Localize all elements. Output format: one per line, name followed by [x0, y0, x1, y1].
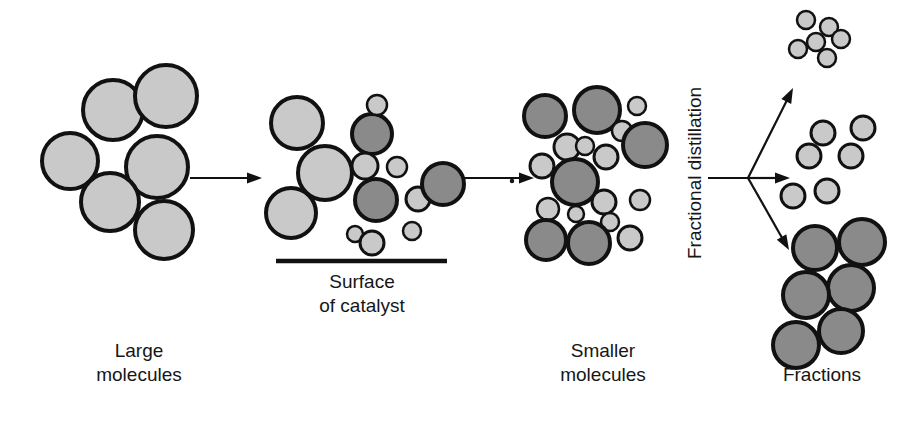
- molecule-smaller-3: [628, 97, 646, 115]
- molecule-catalyst-9: [403, 222, 421, 240]
- arrow-branch-down-head: [777, 234, 789, 250]
- molecule-catalyst-3: [355, 179, 397, 221]
- molecule-fraction-middle-1: [851, 116, 875, 140]
- molecule-smaller-12: [537, 198, 559, 220]
- arrow-branch-up-head: [781, 88, 793, 104]
- molecule-smaller-5: [576, 137, 594, 155]
- fraction-group-light: [789, 11, 850, 67]
- molecule-smaller-7: [594, 145, 618, 169]
- molecule-fraction-light-3: [832, 30, 850, 48]
- molecule-catalyst-2: [266, 188, 316, 238]
- label-large-line1: Large: [115, 340, 164, 361]
- label-smaller-line2: molecules: [560, 364, 646, 385]
- molecule-smaller-8: [530, 154, 554, 178]
- molecule-catalyst-12: [360, 231, 384, 255]
- molecule-fraction-middle-5: [781, 184, 805, 208]
- molecule-fraction-heavy-1: [839, 219, 885, 265]
- molecule-fraction-heavy-2: [828, 265, 874, 311]
- label-large-line2: molecules: [96, 364, 182, 385]
- molecule-catalyst-5: [367, 95, 387, 115]
- molecule-smaller-11: [630, 190, 650, 210]
- molecule-catalyst-6: [352, 153, 378, 179]
- molecule-smaller-0: [524, 95, 566, 137]
- molecule-fraction-light-4: [789, 40, 807, 58]
- molecule-large-5: [135, 201, 193, 259]
- stage-smaller-molecules: [511, 87, 667, 264]
- catalytic-cracking-diagram: Large molecules Surface of catalyst Smal…: [0, 0, 900, 434]
- arrow-stage1-to-stage2-head: [247, 173, 262, 184]
- molecule-fraction-light-2: [807, 33, 825, 51]
- molecule-fraction-heavy-0: [793, 226, 837, 270]
- molecule-smaller-18: [511, 180, 513, 182]
- molecule-smaller-17: [618, 226, 642, 250]
- molecule-smaller-13: [568, 206, 584, 222]
- label-catalyst-line1: Surface: [329, 271, 394, 292]
- arrow-branch-up-shaft: [748, 99, 787, 178]
- fraction-group-middle: [781, 116, 875, 208]
- label-catalyst-line2: of catalyst: [319, 295, 405, 316]
- molecule-smaller-10: [592, 190, 616, 214]
- molecule-fraction-heavy-4: [819, 309, 863, 353]
- fraction-group-heavy: [773, 219, 885, 368]
- molecule-fraction-middle-2: [797, 144, 821, 168]
- molecule-fraction-middle-3: [839, 144, 863, 168]
- molecule-smaller-15: [526, 220, 566, 260]
- molecule-catalyst-0: [271, 97, 323, 149]
- molecule-catalyst-4: [352, 114, 392, 154]
- molecule-large-2: [135, 65, 197, 127]
- label-fractions: Fractions: [783, 364, 861, 385]
- molecule-fraction-light-5: [818, 49, 836, 67]
- arrow-branch-middle-head: [775, 173, 790, 184]
- molecule-smaller-16: [568, 222, 610, 264]
- diagram-canvas: Large molecules Surface of catalyst Smal…: [0, 0, 900, 434]
- molecule-fraction-middle-0: [811, 121, 835, 145]
- molecule-smaller-6: [623, 123, 667, 167]
- stage-large-molecules: [42, 65, 197, 259]
- stage-catalyst-surface: [266, 95, 464, 255]
- molecule-catalyst-10: [422, 163, 464, 205]
- molecule-catalyst-7: [387, 157, 407, 177]
- label-smaller-line1: Smaller: [571, 340, 636, 361]
- label-fractional-distillation: Fractional distillation: [684, 87, 705, 259]
- molecule-fraction-middle-4: [815, 179, 839, 203]
- molecule-large-4: [81, 173, 139, 231]
- molecule-fraction-heavy-5: [773, 322, 819, 368]
- molecule-fraction-heavy-3: [783, 272, 829, 318]
- arrow-branch-down-shaft: [748, 178, 783, 239]
- molecule-fraction-light-0: [797, 11, 815, 29]
